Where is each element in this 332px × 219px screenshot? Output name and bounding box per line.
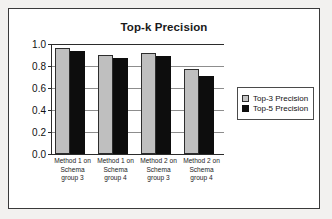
y-tick-label: 0.2: [32, 127, 46, 138]
x-category-label-line: group 3: [51, 174, 94, 183]
y-tick-mark: [48, 154, 52, 155]
legend-swatch-icon: [242, 95, 249, 102]
x-category-label-line: Method 2 on: [180, 157, 223, 166]
bar: [141, 53, 156, 154]
bar-group: [52, 44, 95, 154]
bar-group: [181, 44, 224, 154]
x-category-label: Method 2 onSchemagroup 4: [180, 157, 223, 183]
x-category-label-line: Schema: [51, 166, 94, 175]
chart-title: Top-k Precision: [9, 21, 319, 33]
legend-label: Top-3 Precision: [253, 94, 308, 103]
bar: [98, 55, 113, 154]
x-category-label-line: Schema: [180, 166, 223, 175]
legend-item: Top-3 Precision: [242, 94, 308, 103]
x-axis-category-labels: Method 1 onSchemagroup 3Method 1 onSchem…: [51, 157, 223, 197]
y-tick-label: 0.4: [32, 105, 46, 116]
bar: [113, 58, 128, 154]
x-category-label-line: Method 1 on: [94, 157, 137, 166]
x-category-label-line: Method 2 on: [137, 157, 180, 166]
chart-frame: Top-k Precision 0.00.20.40.60.81.0 Metho…: [8, 8, 320, 209]
legend-item: Top-5 Precision: [242, 104, 308, 113]
bar: [70, 51, 85, 154]
legend-label: Top-5 Precision: [253, 104, 308, 113]
x-category-label-line: group 3: [137, 174, 180, 183]
bar: [55, 48, 70, 154]
legend-swatch-icon: [242, 105, 249, 112]
bar: [184, 69, 199, 154]
bar: [156, 56, 171, 154]
bar-group: [138, 44, 181, 154]
x-category-label-line: Schema: [137, 166, 180, 175]
x-category-label: Method 2 onSchemagroup 3: [137, 157, 180, 183]
x-category-label: Method 1 onSchemagroup 4: [94, 157, 137, 183]
x-category-label: Method 1 onSchemagroup 3: [51, 157, 94, 183]
y-tick-label: 0.0: [32, 149, 46, 160]
chart-legend: Top-3 PrecisionTop-5 Precision: [237, 87, 314, 120]
bar: [199, 76, 214, 154]
bars-layer: [52, 44, 224, 154]
x-category-label-line: Method 1 on: [51, 157, 94, 166]
y-tick-label: 0.6: [32, 83, 46, 94]
x-category-label-line: group 4: [94, 174, 137, 183]
plot-area: 0.00.20.40.60.81.0: [51, 44, 224, 155]
y-tick-label: 0.8: [32, 61, 46, 72]
y-tick-label: 1.0: [32, 39, 46, 50]
x-category-label-line: group 4: [180, 174, 223, 183]
bar-group: [95, 44, 138, 154]
x-category-label-line: Schema: [94, 166, 137, 175]
